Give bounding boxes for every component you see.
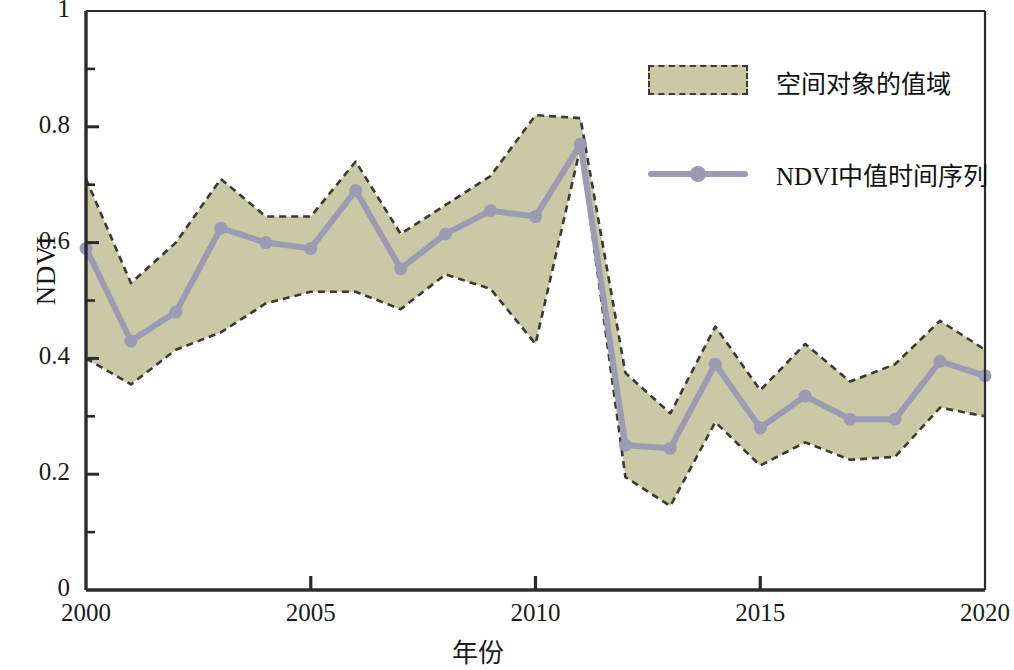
x-tick-label: 2005	[266, 599, 356, 627]
data-point	[709, 358, 722, 371]
legend-band-swatch	[648, 65, 748, 99]
legend-item-value-range: 空间对象的值域	[648, 58, 968, 106]
data-point	[664, 442, 677, 455]
y-tick-label: 1	[0, 0, 70, 23]
data-point	[574, 138, 587, 151]
data-point	[394, 262, 407, 275]
data-point	[799, 390, 812, 403]
legend-line-swatch	[648, 157, 748, 191]
y-tick-label: 0.6	[0, 227, 70, 255]
x-tick-label: 2010	[491, 599, 581, 627]
x-tick-label: 2015	[715, 599, 805, 627]
data-point	[754, 421, 767, 434]
data-point	[529, 210, 542, 223]
legend-item-median-series: NDVI中值时间序列	[648, 150, 968, 198]
y-tick-label: 0.8	[0, 111, 70, 139]
data-point	[124, 335, 137, 348]
data-point	[304, 242, 317, 255]
x-axis-title: 年份	[452, 632, 504, 669]
y-tick-label: 0	[0, 574, 70, 602]
data-point	[484, 204, 497, 217]
data-point	[349, 184, 362, 197]
x-axis-ticks	[311, 576, 761, 590]
data-point	[439, 227, 452, 240]
legend-marker-icon	[690, 166, 706, 182]
data-point	[889, 413, 902, 426]
legend-label-median-series: NDVI中值时间序列	[776, 156, 989, 192]
data-point	[214, 222, 227, 235]
x-tick-label: 2020	[940, 599, 1014, 627]
x-tick-label: 2000	[41, 599, 131, 627]
y-tick-label: 0.2	[0, 458, 70, 486]
data-point	[169, 306, 182, 319]
data-point	[619, 439, 632, 452]
legend-label-value-range: 空间对象的值域	[776, 64, 951, 100]
data-point	[259, 236, 272, 249]
chart-legend: 空间对象的值域 NDVI中值时间序列	[648, 58, 968, 242]
y-tick-label: 0.4	[0, 342, 70, 370]
data-point	[844, 413, 857, 426]
data-point	[934, 355, 947, 368]
